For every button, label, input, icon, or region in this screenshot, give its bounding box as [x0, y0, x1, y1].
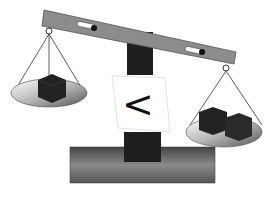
left-cube	[38, 74, 66, 103]
scale-post-lower	[124, 132, 161, 162]
right-cube-1	[199, 107, 227, 135]
right-pan	[186, 65, 262, 147]
right-cube-2	[225, 113, 252, 141]
comparison-symbol: <	[118, 84, 158, 124]
left-pan	[11, 28, 87, 107]
